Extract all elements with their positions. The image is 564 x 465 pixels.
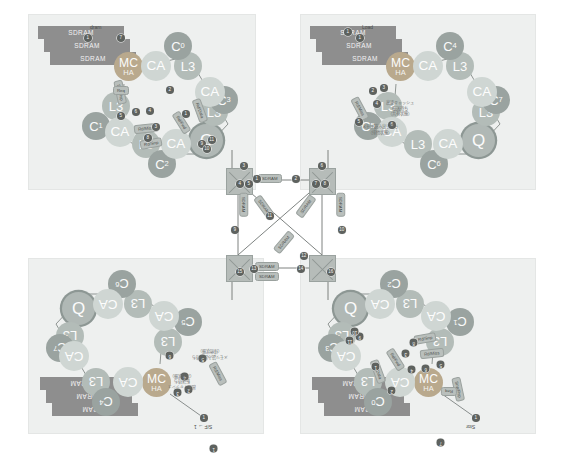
center-pill-bottom-lower: SDRAM xyxy=(255,272,279,281)
tl-core-C0: C0 xyxy=(164,32,192,60)
tr-step-badge-1: 1 xyxy=(344,28,352,36)
center-step-badge-2: 2 xyxy=(292,175,300,183)
br-message-pill-5: Req xyxy=(441,387,457,396)
tr-cache-agent-1: CA xyxy=(467,77,497,107)
tl-step-badge-2: 2 xyxy=(166,86,174,94)
tl-memory-controller: MCHA xyxy=(114,52,143,81)
tr-step-badge-3: 3 xyxy=(380,84,388,92)
center-step-badge-5: 5 xyxy=(245,180,253,188)
center-step-badge-3: 3 xyxy=(240,162,248,170)
br-step-badge-7: 7 xyxy=(437,439,445,447)
bl-entry-label: S/F → 1 xyxy=(194,424,212,430)
bl-state-note-1: メモリ読み出し待ち（排他状態） xyxy=(192,349,228,360)
tr-cache-agent-2: CA xyxy=(433,129,463,159)
br-cache-agent-2: CA xyxy=(365,289,395,319)
br-memory-controller: MCHA xyxy=(414,368,443,397)
tl-step-badge-10: 10 xyxy=(203,145,211,153)
tl-step-badge-3: 3 xyxy=(152,123,160,131)
tl-step-badge-1: 1 xyxy=(182,110,190,118)
center-pill-left-vert: SDRAM xyxy=(239,193,248,217)
center-step-badge-9: 9 xyxy=(231,226,239,234)
br-step-badge-6: 6 xyxy=(422,365,430,373)
br-step-badge-10: 10 xyxy=(351,328,359,336)
bl-step-badge-1: 1 xyxy=(210,445,218,453)
br-cache-agent-3: CA xyxy=(421,301,451,331)
bl-state-note-0: 高速キャッシュ転送待ち（共有状態） xyxy=(168,373,196,390)
center-pill-bottom-upper: SDRAM xyxy=(255,262,279,271)
br-entry-label: Stor xyxy=(466,424,475,430)
center-step-badge-6: 6 xyxy=(318,162,326,170)
tr-step-badge-2: 2 xyxy=(369,87,377,95)
bl-memory-controller: MCHA xyxy=(142,368,171,397)
br-entry-badge: 1 xyxy=(472,414,480,422)
tr-state-note-0: 高速キャッシュ転送待ち（共有状態） xyxy=(386,100,414,117)
center-pill-diag-b: SDRAM xyxy=(295,194,316,218)
br-message-pill-0: Rd/Miss xyxy=(420,348,444,359)
bl-entry-badge: 1 xyxy=(200,414,208,422)
tr-entry-badge: 1 xyxy=(356,34,364,42)
center-step-badge-8: 8 xyxy=(321,180,329,188)
tl-step-badge-4: 4 xyxy=(146,107,154,115)
tr-core-C4: C4 xyxy=(436,32,464,60)
br-step-badge-3: 3 xyxy=(402,350,410,358)
bl-cache-agent-2: CA xyxy=(93,289,123,319)
bl-step-badge-6: 6 xyxy=(166,352,174,360)
tr-state-note-1: メモリ読み出し待ち（排他状態） xyxy=(362,124,398,135)
bl-step-badge-3: 3 xyxy=(174,389,182,397)
bl-cache-agent-3: CA xyxy=(149,301,179,331)
br-step-badge-1: 1 xyxy=(372,363,380,371)
tr-router-q: Q xyxy=(462,124,495,157)
center-pill-top: SDRAM xyxy=(258,174,282,183)
tl-step-badge-7: 7 xyxy=(117,34,125,42)
tl-entry-badge: 1 xyxy=(84,34,92,42)
center-step-badge-1: 1 xyxy=(253,175,261,183)
center-step-badge-13: 13 xyxy=(250,265,258,273)
center-step-badge-16: 16 xyxy=(327,268,335,276)
center-pill-right-vert: SDRAM xyxy=(336,193,345,217)
center-step-badge-7: 7 xyxy=(312,180,320,188)
center-step-badge-12: 12 xyxy=(300,252,308,260)
tl-cache-agent-2: CA xyxy=(161,129,191,159)
center-step-badge-14: 14 xyxy=(297,265,305,273)
tl-cache-agent-3: CA xyxy=(105,117,135,147)
tl-step-badge-5: 5 xyxy=(117,112,125,120)
br-step-badge-11: 11 xyxy=(346,337,354,345)
center-step-badge-15: 15 xyxy=(236,268,244,276)
bl-message-pill-0: Rd/Miss xyxy=(208,361,227,386)
br-router-q: Q xyxy=(334,292,367,325)
center-step-badge-10: 10 xyxy=(338,226,346,234)
sdram-bar: SDRAM xyxy=(38,26,124,39)
br-step-badge-5: 5 xyxy=(437,361,445,369)
br-step-badge-2: 2 xyxy=(388,387,396,395)
tl-cache-agent-0: CA xyxy=(141,51,171,81)
br-step-badge-8: 8 xyxy=(410,339,418,347)
tr-entry-label: Load xyxy=(362,24,373,30)
tl-step-badge-11: 11 xyxy=(208,136,216,144)
center-pill-diag-c: SDRAM xyxy=(273,231,295,255)
tl-message-pill-5: Req xyxy=(113,86,129,95)
sdram-bar: SDRAM xyxy=(310,26,396,39)
br-cache-agent-1: CA xyxy=(331,341,361,371)
bl-cache-agent-0: CA xyxy=(113,367,143,397)
center-step-badge-11: 11 xyxy=(266,212,274,220)
bl-core-C4: C4 xyxy=(92,388,120,416)
tr-cache-agent-0: CA xyxy=(413,51,443,81)
bl-router-q: Q xyxy=(62,292,95,325)
center-step-badge-4: 4 xyxy=(236,180,244,188)
tl-entry-label: dram xyxy=(90,24,101,30)
br-step-badge-4: 4 xyxy=(408,366,416,374)
bl-cache-agent-1: CA xyxy=(59,341,89,371)
tl-step-badge-6: 6 xyxy=(132,108,140,116)
figure-canvas: SDRAMSDRAMSDRAMMCHAQL3C0CAL3C3CAL3C2CAL3… xyxy=(0,0,564,465)
tl-step-badge-8: 8 xyxy=(144,134,152,142)
tr-step-badge-4: 4 xyxy=(373,100,381,108)
tr-memory-controller: MCHA xyxy=(386,52,415,81)
